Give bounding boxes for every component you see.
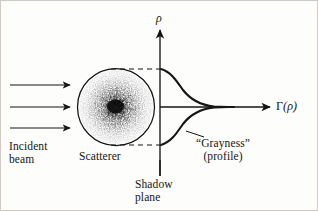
- gamma-axis-label: Γ(ρ): [276, 100, 297, 113]
- scattering-grayness-figure: ρ Γ(ρ) Incident beam Scatterer Shadow pl…: [0, 0, 318, 211]
- rho-axis-label: ρ: [156, 12, 162, 25]
- incident-beam-label: Incident beam: [9, 140, 47, 166]
- incident-beam-arrows: [10, 85, 70, 128]
- grayness-sublabel: (profile): [196, 150, 250, 163]
- grayness-label: “Grayness”: [196, 137, 250, 149]
- grayness-label-group: “Grayness”(profile): [196, 137, 250, 163]
- shadow-plane-label: Shadow plane: [135, 178, 173, 204]
- scatterer-disc: [78, 69, 155, 146]
- gamma-argument: (ρ): [283, 99, 297, 113]
- scatterer-label: Scatterer: [79, 150, 121, 163]
- gamma-symbol: Γ: [276, 99, 283, 113]
